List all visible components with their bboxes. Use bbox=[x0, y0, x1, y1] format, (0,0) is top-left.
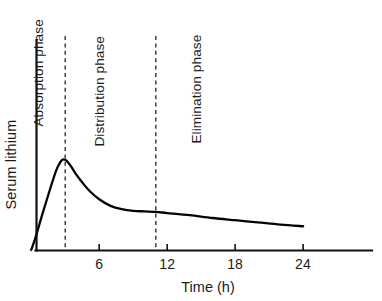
pharmacokinetic-curve-figure: Serum lithium Absorption phase Distribut… bbox=[0, 0, 382, 301]
x-tick-label-12: 12 bbox=[159, 257, 175, 271]
serum-lithium-curve bbox=[31, 159, 303, 250]
phase-label-absorption: Absorption phase bbox=[32, 19, 46, 126]
y-axis-title: Serum lithium bbox=[4, 120, 19, 210]
x-tick-label-6: 6 bbox=[95, 257, 103, 271]
phase-label-distribution: Distribution phase bbox=[93, 36, 107, 147]
x-tick-label-18: 18 bbox=[227, 257, 243, 271]
x-tick-label-24: 24 bbox=[295, 257, 311, 271]
x-axis-title: Time (h) bbox=[181, 280, 234, 295]
phase-label-elimination: Elimination phase bbox=[190, 35, 204, 144]
